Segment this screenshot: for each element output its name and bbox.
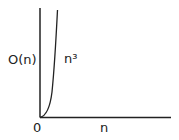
x-axis-label: n	[100, 121, 108, 134]
y-axis-label: O(n)	[8, 53, 37, 66]
origin-label: 0	[33, 121, 41, 134]
complexity-chart	[0, 0, 179, 140]
curve-label: n³	[64, 52, 77, 65]
n-cubed-curve	[40, 10, 58, 118]
